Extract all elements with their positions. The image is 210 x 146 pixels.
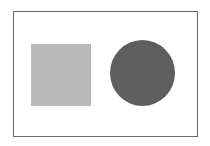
dark-circle-shape: [110, 40, 175, 106]
gray-square-shape: [31, 44, 91, 106]
